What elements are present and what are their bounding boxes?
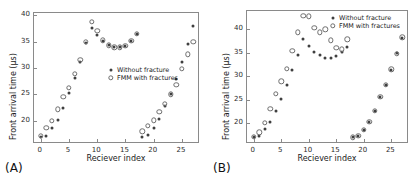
data-point bbox=[140, 129, 145, 134]
y-tick bbox=[247, 53, 250, 54]
data-point bbox=[78, 57, 83, 62]
data-point bbox=[345, 37, 350, 42]
y-tick-label: 35 bbox=[231, 48, 243, 55]
x-tick bbox=[336, 139, 337, 142]
x-tick-label: 15 bbox=[120, 147, 129, 154]
panel-b-legend-row-fmm-with-fractures: FMM with fractures bbox=[327, 22, 400, 30]
data-point bbox=[38, 133, 43, 138]
data-point bbox=[295, 30, 300, 35]
data-point bbox=[89, 19, 94, 24]
data-point bbox=[389, 67, 394, 72]
data-point bbox=[262, 120, 267, 125]
x-tick bbox=[364, 139, 365, 142]
data-point bbox=[313, 51, 316, 54]
panel-a-legend-label-without-fracture: Without fracture bbox=[117, 67, 169, 73]
data-point bbox=[356, 133, 361, 138]
open-circle-marker-icon bbox=[327, 22, 339, 30]
x-tick-label: 0 bbox=[250, 147, 254, 154]
y-tick-label: 30 bbox=[18, 63, 30, 70]
y-tick bbox=[247, 29, 250, 30]
data-point bbox=[134, 31, 139, 36]
y-tick-label: 40 bbox=[18, 11, 30, 18]
y-tick bbox=[34, 94, 37, 95]
data-point bbox=[100, 38, 105, 43]
data-point bbox=[168, 92, 173, 97]
y-tick bbox=[34, 68, 37, 69]
data-point bbox=[72, 71, 77, 76]
x-tick bbox=[182, 139, 183, 142]
x-tick-label: 10 bbox=[92, 147, 101, 154]
data-point bbox=[44, 125, 49, 130]
data-point bbox=[56, 118, 59, 121]
data-point bbox=[151, 118, 156, 123]
data-point bbox=[61, 94, 66, 99]
data-point bbox=[45, 134, 48, 137]
data-point bbox=[302, 38, 305, 41]
y-tick-label: 35 bbox=[18, 37, 30, 44]
data-point bbox=[339, 46, 344, 51]
x-tick bbox=[281, 139, 282, 142]
data-point bbox=[186, 42, 189, 45]
y-tick-label: 40 bbox=[231, 24, 243, 31]
panel-b-plot-area bbox=[247, 11, 407, 142]
y-tick bbox=[34, 121, 37, 122]
data-point bbox=[278, 79, 283, 84]
data-point bbox=[179, 66, 184, 71]
data-point bbox=[269, 120, 272, 123]
panel-a-yaxis-title: Front arrival time (μs) bbox=[10, 53, 18, 140]
panel-a-legend-label-fmm-with-fractures: FMM with fractures bbox=[117, 75, 178, 81]
panel-a-legend-row-fmm-with-fractures: FMM with fractures bbox=[105, 74, 178, 82]
panel-b-legend-label-without-fracture: Without fracture bbox=[339, 15, 391, 21]
data-point bbox=[145, 123, 150, 128]
x-tick bbox=[97, 139, 98, 142]
panel-a: 05101520252025303540 Reciever index Fron… bbox=[0, 0, 208, 185]
data-point bbox=[123, 43, 128, 48]
data-point bbox=[372, 108, 377, 113]
data-point bbox=[307, 45, 310, 48]
y-tick bbox=[247, 123, 250, 124]
data-point bbox=[191, 39, 196, 44]
x-tick bbox=[41, 139, 42, 142]
x-tick-label: 10 bbox=[303, 147, 312, 154]
panel-b-legend-row-without-fracture: Without fracture bbox=[327, 14, 400, 22]
data-point bbox=[394, 51, 399, 56]
data-point bbox=[383, 82, 388, 87]
data-point bbox=[285, 84, 288, 87]
x-tick-label: 20 bbox=[358, 147, 367, 154]
data-point bbox=[83, 39, 88, 44]
x-tick bbox=[69, 139, 70, 142]
data-point bbox=[117, 45, 122, 50]
y-tick-label: 20 bbox=[231, 119, 243, 126]
panel-b: 05101520252025303540 Reciever index Fron… bbox=[209, 0, 417, 185]
data-point bbox=[346, 45, 349, 48]
data-point bbox=[258, 134, 261, 137]
y-tick-label: 20 bbox=[18, 116, 30, 123]
data-point bbox=[68, 91, 71, 94]
x-tick bbox=[154, 139, 155, 142]
data-point bbox=[147, 134, 150, 137]
data-point bbox=[280, 97, 283, 100]
data-point bbox=[361, 127, 366, 132]
closed-circle-marker-icon bbox=[327, 14, 339, 22]
data-point bbox=[158, 118, 161, 121]
panel-a-legend-row-without-fracture: Without fracture bbox=[105, 66, 178, 74]
panel-b-xaxis-title: Reciever index bbox=[246, 155, 408, 163]
data-point bbox=[400, 35, 405, 40]
data-point bbox=[192, 25, 195, 28]
x-tick-label: 20 bbox=[148, 147, 157, 154]
data-point bbox=[51, 127, 54, 130]
x-tick-label: 0 bbox=[38, 147, 42, 154]
data-point bbox=[55, 106, 60, 111]
data-point bbox=[328, 38, 333, 43]
panel-a-legend: Without fracture FMM with fractures bbox=[105, 66, 178, 82]
data-point bbox=[256, 130, 261, 135]
data-point bbox=[152, 126, 155, 129]
y-tick bbox=[247, 76, 250, 77]
x-tick-label: 15 bbox=[331, 147, 340, 154]
y-tick-label: 25 bbox=[18, 90, 30, 97]
data-point bbox=[141, 135, 144, 138]
data-point bbox=[284, 66, 289, 71]
data-point bbox=[157, 109, 162, 114]
panel-b-label: (B) bbox=[213, 162, 231, 174]
data-point bbox=[312, 25, 317, 30]
